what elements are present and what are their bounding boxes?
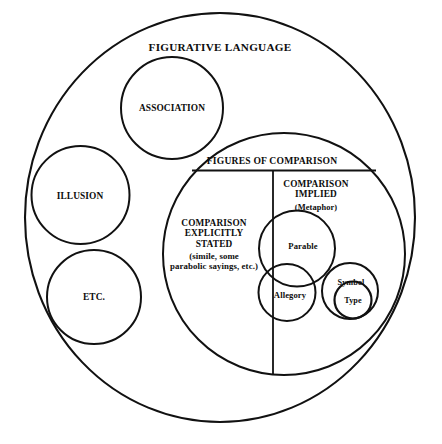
- label-association: ASSOCIATION: [139, 103, 205, 114]
- label-parable: Parable: [288, 242, 317, 252]
- label-comparison-implied-note: (Metaphor): [295, 203, 337, 212]
- label-etc: ETC.: [83, 292, 105, 303]
- label-figurative-language: FIGURATIVE LANGUAGE: [149, 41, 292, 54]
- label-comparison-implied: COMPARISON IMPLIED: [283, 179, 348, 200]
- label-symbol: Symbol: [338, 278, 365, 287]
- figurative-language-diagram: FIGURATIVE LANGUAGE ASSOCIATION ILLUSION…: [0, 0, 442, 444]
- label-comparison-explicit-note: (simile, some parabolic sayings, etc.): [170, 252, 258, 272]
- label-illusion: ILLUSION: [57, 191, 104, 202]
- label-figures-of-comparison: FIGURES OF COMPARISON: [207, 156, 338, 167]
- label-comparison-explicit: COMPARISON EXPLICITLY STATED: [181, 218, 246, 249]
- label-type: Type: [344, 296, 362, 305]
- label-allegory: Allegory: [274, 291, 306, 301]
